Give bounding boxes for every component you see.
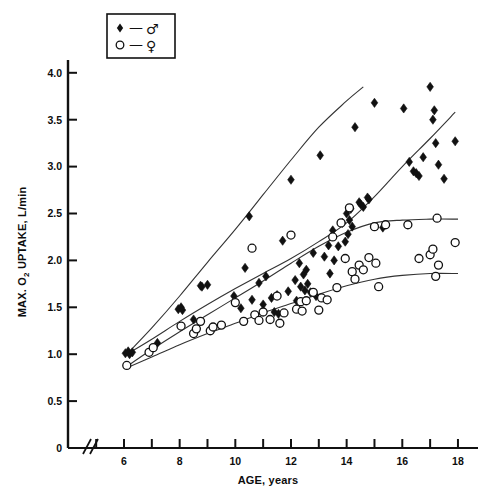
data-point-male [285, 287, 292, 296]
data-point-female [382, 221, 390, 229]
data-point-female [240, 317, 248, 325]
data-point-female [192, 325, 200, 333]
y-tick-label: 1.0 [47, 348, 62, 360]
data-point-female [451, 239, 459, 247]
data-point-female [123, 361, 131, 369]
data-point-female [177, 322, 185, 330]
x-tick-label: 14 [341, 455, 353, 467]
data-point-male [310, 248, 317, 257]
data-point-male [430, 115, 437, 124]
data-point-male [432, 139, 439, 148]
data-point-male [331, 256, 338, 265]
legend-box[interactable]: —♂—♀ [107, 14, 175, 58]
x-tick-label: 10 [229, 455, 241, 467]
svg-text:MAX. O2 UPTAKE, L/min: MAX. O2 UPTAKE, L/min [16, 187, 31, 318]
data-point-male [352, 123, 359, 132]
data-point-female [351, 275, 359, 283]
data-point-male [288, 175, 295, 184]
data-point-male [292, 275, 299, 284]
data-point-male [327, 269, 334, 278]
data-point-male [435, 160, 442, 169]
data-point-female [333, 284, 341, 292]
x-tick-label: 6 [121, 455, 127, 467]
y-tick-label: 2.0 [47, 254, 62, 266]
data-point-female [217, 321, 225, 329]
data-point-male [204, 280, 211, 289]
data-point-female [365, 254, 373, 262]
x-axis-title: AGE, years [238, 474, 299, 486]
legend-gender-symbol-female: ♀ [146, 38, 156, 54]
y-axis-title: MAX. O2 UPTAKE, L/min [16, 187, 31, 318]
data-point-female [337, 219, 345, 227]
data-point-female [209, 323, 217, 331]
data-point-male [321, 252, 328, 261]
data-point-female [149, 344, 157, 352]
data-point-female [375, 283, 383, 291]
chart-canvas: 00.51.01.52.02.53.03.54.0681012141618 AG… [0, 0, 488, 502]
x-tick-label: 12 [285, 455, 297, 467]
data-point-male [317, 151, 324, 160]
data-point-male [242, 263, 249, 272]
data-point-female [329, 233, 337, 241]
figure-container: 00.51.01.52.02.53.03.54.0681012141618 AG… [0, 0, 488, 502]
axes-group: 00.51.01.52.02.53.03.54.0681012141618 [47, 60, 478, 467]
data-point-female [255, 316, 263, 324]
x-tick-label: 18 [452, 455, 464, 467]
data-point-female [429, 245, 437, 253]
trend-curve-male-upper-envelope [127, 87, 363, 354]
trend-curve-female-upper-envelope [128, 219, 458, 365]
data-point-female [315, 306, 323, 314]
data-point-female [404, 221, 412, 229]
data-point-female [298, 307, 306, 315]
y-tick-label: 1.5 [47, 301, 62, 313]
data-point-female [259, 308, 267, 316]
x-tick-label: 8 [177, 455, 183, 467]
data-point-female [280, 309, 288, 317]
data-point-male [406, 157, 413, 166]
data-point-male [279, 236, 286, 245]
data-point-male [371, 98, 378, 107]
trend-curve-female-lower-envelope [128, 273, 458, 367]
data-point-female [266, 315, 274, 323]
data-point-female [231, 299, 239, 307]
data-point-female [302, 297, 310, 305]
data-point-female [341, 255, 349, 263]
legend-dash: — [129, 36, 143, 52]
data-point-male [246, 212, 253, 221]
legend-marker-open-circle-icon [116, 41, 124, 49]
data-point-female [370, 223, 378, 231]
data-point-male [420, 153, 427, 162]
data-point-male [256, 278, 263, 287]
data-point-female [273, 292, 281, 300]
data-point-female [287, 231, 295, 239]
data-point-female [372, 259, 380, 267]
legend-dash: — [129, 19, 143, 35]
legend-gender-symbol-male: ♂ [146, 21, 159, 37]
data-point-male [427, 82, 434, 91]
data-point-female [345, 204, 353, 212]
data-point-female [432, 272, 440, 280]
y-tick-label: 4.0 [47, 67, 62, 79]
y-tick-label: 2.5 [47, 207, 62, 219]
data-point-male [431, 106, 438, 115]
data-point-female [359, 266, 367, 274]
data-point-female [197, 317, 205, 325]
data-point-female [434, 261, 442, 269]
data-point-female [323, 296, 331, 304]
data-point-female [276, 319, 284, 327]
data-point-male [441, 174, 448, 183]
data-point-male [400, 104, 407, 113]
data-point-male [190, 315, 197, 324]
data-point-female [309, 288, 317, 296]
data-point-female [248, 244, 256, 252]
x-tick-label: 16 [396, 455, 408, 467]
data-point-male [249, 295, 256, 304]
data-point-female [415, 255, 423, 263]
y-tick-label: 0.5 [47, 395, 62, 407]
y-tick-label: 3.0 [47, 160, 62, 172]
data-point-male [452, 137, 459, 146]
y-tick-label: 3.5 [47, 114, 62, 126]
data-point-male [335, 242, 342, 251]
series-female [123, 204, 459, 370]
data-point-female [348, 268, 356, 276]
